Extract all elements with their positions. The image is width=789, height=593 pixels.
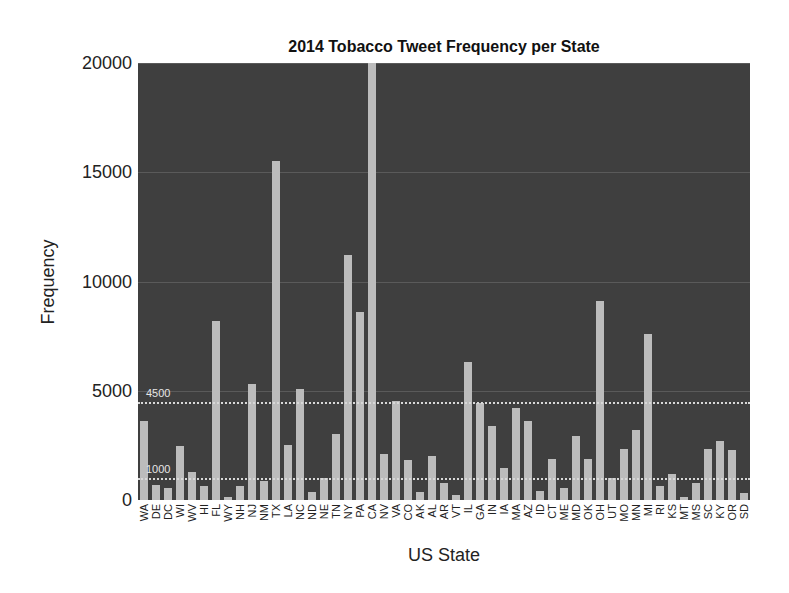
x-tick-label: CO	[402, 504, 414, 521]
gridline	[138, 172, 750, 173]
x-tick-label: LA	[282, 504, 294, 517]
bar-id	[536, 491, 545, 500]
x-tick-label: UT	[606, 504, 618, 519]
x-tick-label: AR	[438, 504, 450, 519]
bar-nh	[236, 486, 245, 500]
bar-ia	[500, 468, 509, 500]
y-tick-label: 10000	[82, 271, 132, 292]
bar-wv	[188, 472, 197, 500]
chart-title: 2014 Tobacco Tweet Frequency per State	[138, 38, 750, 56]
bar-ky	[716, 441, 725, 500]
x-tick-label: OR	[726, 504, 738, 521]
bar-nv	[380, 454, 389, 500]
x-tick-label: KS	[666, 504, 678, 519]
x-tick-label: MS	[690, 504, 702, 521]
bar-dc	[164, 488, 173, 500]
x-tick-label: MD	[570, 504, 582, 521]
y-tick-label: 5000	[92, 380, 132, 401]
x-tick-label: TX	[270, 504, 282, 518]
x-tick-label: TN	[330, 504, 342, 519]
reference-line-4500	[138, 402, 750, 404]
bar-wy	[224, 497, 233, 500]
x-tick-label: PA	[354, 504, 366, 518]
x-tick-label: WI	[174, 504, 186, 517]
bar-fl	[212, 321, 221, 500]
bar-tx	[272, 161, 281, 500]
x-tick-label: OK	[582, 504, 594, 520]
bar-ak	[416, 492, 425, 500]
bar-tn	[332, 434, 341, 500]
x-tick-label: MA	[510, 504, 522, 521]
x-tick-label: AZ	[522, 504, 534, 518]
bar-az	[524, 421, 533, 500]
bar-ri	[656, 486, 665, 500]
x-tick-label: NM	[258, 504, 270, 521]
reference-line-label: 1000	[146, 463, 170, 475]
gridline	[138, 63, 750, 64]
bar-md	[572, 436, 581, 500]
x-tick-label: HI	[198, 504, 210, 515]
x-tick-label: NE	[318, 504, 330, 519]
bar-la	[284, 445, 293, 500]
reference-line-1000	[138, 478, 750, 480]
bar-hi	[200, 486, 209, 500]
bar-nm	[260, 481, 269, 500]
y-axis-label: Frequency	[38, 239, 59, 324]
x-tick-label: IN	[486, 504, 498, 515]
x-tick-label: OH	[594, 504, 606, 521]
bar-nc	[296, 389, 305, 500]
bar-wa	[140, 421, 149, 500]
bar-ne	[320, 478, 329, 500]
x-tick-label: GA	[474, 504, 486, 520]
x-tick-label: NH	[234, 504, 246, 520]
x-tick-label: NY	[342, 504, 354, 519]
bar-sd	[740, 493, 749, 500]
x-tick-label: IA	[498, 504, 510, 514]
x-tick-label: MN	[630, 504, 642, 521]
x-tick-label: SC	[702, 504, 714, 519]
x-tick-label: IL	[462, 504, 474, 513]
bar-ut	[608, 478, 617, 500]
x-tick-label: VT	[450, 504, 462, 518]
x-tick-label: NC	[294, 504, 306, 520]
bar-sc	[704, 449, 713, 500]
x-tick-label: SD	[738, 504, 750, 519]
bar-mi	[644, 334, 653, 500]
gridline	[138, 282, 750, 283]
bar-de	[152, 485, 161, 500]
x-tick-label: KY	[714, 504, 726, 519]
plot-area: 45001000	[138, 63, 750, 500]
x-tick-label: MI	[642, 504, 654, 516]
x-tick-label: WA	[138, 504, 150, 521]
bar-in	[488, 426, 497, 500]
bar-mt	[680, 497, 689, 500]
bar-pa	[356, 312, 365, 500]
bar-nd	[308, 492, 317, 500]
bar-vt	[452, 495, 461, 500]
y-tick-label: 20000	[82, 53, 132, 74]
x-tick-label: AL	[426, 504, 438, 517]
x-tick-label: DC	[162, 504, 174, 520]
x-tick-label: WY	[222, 504, 234, 522]
x-tick-label: AK	[414, 504, 426, 519]
x-tick-label: NJ	[246, 504, 258, 517]
x-tick-label: VA	[390, 504, 402, 518]
x-tick-label: DE	[150, 504, 162, 519]
bar-ms	[692, 483, 701, 500]
bar-oh	[596, 301, 605, 500]
x-axis-label: US State	[138, 545, 750, 566]
reference-line-label: 4500	[146, 387, 170, 399]
y-tick-label: 0	[122, 490, 132, 511]
x-tick-label: FL	[210, 504, 222, 517]
bar-ar	[440, 483, 449, 500]
bar-ma	[512, 408, 521, 500]
x-tick-label: RI	[654, 504, 666, 515]
x-tick-label: ME	[558, 504, 570, 521]
x-tick-label: MT	[678, 504, 690, 520]
x-tick-label: MO	[618, 504, 630, 522]
x-tick-label: CT	[546, 504, 558, 519]
bar-mo	[620, 449, 629, 500]
bar-or	[728, 450, 737, 500]
x-tick-label: WV	[186, 504, 198, 522]
bar-wi	[176, 446, 185, 500]
